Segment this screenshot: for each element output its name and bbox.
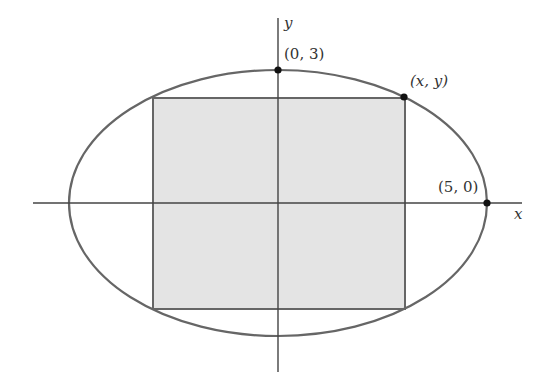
diagram-canvas: y x (0, 3) (x, y) (5, 0)	[0, 0, 547, 386]
point-corner	[400, 93, 407, 100]
point-top	[274, 66, 281, 73]
y-axis-label: y	[283, 14, 293, 32]
point-right-label: (5, 0)	[438, 178, 478, 196]
point-right	[483, 199, 490, 206]
point-top-label: (0, 3)	[284, 45, 324, 63]
point-corner-label: (x, y)	[410, 72, 448, 90]
x-axis-label: x	[514, 205, 523, 223]
